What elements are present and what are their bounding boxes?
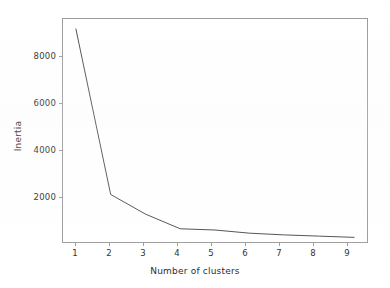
xtick-label-9: 9 bbox=[344, 248, 350, 258]
xtick-mark-6 bbox=[245, 243, 246, 246]
xtick-label-6: 6 bbox=[242, 248, 248, 258]
xtick-label-2: 2 bbox=[106, 248, 112, 258]
xtick-mark-9 bbox=[347, 243, 348, 246]
xtick-label-1: 1 bbox=[72, 248, 78, 258]
xtick-label-5: 5 bbox=[208, 248, 214, 258]
y-axis-label: Inertia bbox=[13, 121, 23, 152]
xtick-label-4: 4 bbox=[174, 248, 180, 258]
elbow-plot-figure: 2000 4000 6000 8000 1 2 3 4 5 6 7 8 9 Nu… bbox=[0, 0, 390, 288]
xtick-mark-7 bbox=[279, 243, 280, 246]
xtick-label-3: 3 bbox=[140, 248, 146, 258]
ytick-label-4000: 4000 bbox=[26, 145, 56, 155]
xtick-mark-2 bbox=[109, 243, 110, 246]
x-axis-label: Number of clusters bbox=[0, 266, 390, 276]
ytick-label-8000: 8000 bbox=[26, 51, 56, 61]
xtick-mark-5 bbox=[211, 243, 212, 246]
xtick-label-7: 7 bbox=[276, 248, 282, 258]
inertia-line-series bbox=[62, 18, 368, 243]
ytick-label-6000: 6000 bbox=[26, 98, 56, 108]
xtick-mark-8 bbox=[313, 243, 314, 246]
inertia-polyline bbox=[76, 29, 354, 237]
ytick-label-2000: 2000 bbox=[26, 192, 56, 202]
xtick-mark-1 bbox=[75, 243, 76, 246]
xtick-label-8: 8 bbox=[310, 248, 316, 258]
xtick-mark-3 bbox=[143, 243, 144, 246]
xtick-mark-4 bbox=[177, 243, 178, 246]
